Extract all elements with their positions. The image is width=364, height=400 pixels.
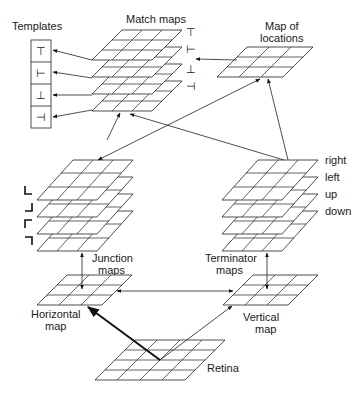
junction-glyphs: [25, 186, 32, 245]
template-glyph-t: ⊤: [36, 45, 46, 58]
map-of-locations: Map of locations: [217, 20, 313, 77]
junction-glyph-lower-left-corner: [25, 186, 32, 194]
retina: Retina: [95, 340, 240, 380]
junction-glyph-upper-right-corner: [25, 237, 32, 245]
vertical-map: Vertical map: [223, 275, 318, 335]
junction-glyph-lower-right-corner: [25, 203, 32, 211]
template-glyph-right-tee: ⊢: [36, 67, 46, 80]
vertical-map-label-2: map: [255, 323, 276, 335]
terminator-direction-up: up: [325, 188, 337, 200]
match-maps-label: Match maps: [126, 13, 186, 25]
locations-to-match-arrow: [196, 59, 237, 60]
terminator-direction-down: down: [325, 205, 351, 217]
horizontal-map: Horizontal map: [31, 275, 132, 332]
horizontal-map-label-1: Horizontal: [31, 308, 81, 320]
match-maps-stack: Match maps: [92, 13, 196, 111]
map-of-locations-label-1: Map of: [265, 20, 300, 32]
junction-maps-label-2: maps: [98, 264, 125, 276]
terminator-maps-stack: right left up down Terminator maps: [205, 154, 351, 276]
template-glyph-up-tee: ⊥: [36, 89, 46, 102]
map-of-locations-label-2: locations: [260, 32, 304, 44]
match-glyph-right-tee: ⊢: [186, 43, 196, 56]
retina-label: Retina: [207, 362, 240, 374]
templates-label: Templates: [12, 20, 63, 32]
horizontal-map-label-2: map: [45, 320, 66, 332]
terminator-direction-right: right: [325, 154, 346, 166]
junction-glyph-upper-left-corner: [25, 220, 32, 228]
match-glyph-t: ⊤: [186, 26, 196, 39]
diagram-canvas: Templates ⊤ ⊢ ⊥ ⊣ Match maps: [0, 0, 364, 400]
terminator-direction-left: left: [325, 171, 340, 183]
templates-box: Templates ⊤ ⊢ ⊥ ⊣: [12, 20, 63, 128]
terminator-maps-label-1: Terminator: [205, 252, 257, 264]
template-glyph-left-tee: ⊣: [36, 111, 46, 124]
terminator-maps-label-2: maps: [216, 264, 243, 276]
junction-maps-label-1: Junction: [92, 252, 133, 264]
match-glyph-up-tee: ⊥: [186, 63, 196, 76]
match-glyph-left-tee: ⊣: [186, 80, 196, 93]
junction-maps-stack: Junction maps: [25, 160, 133, 276]
vertical-map-label-1: Vertical: [243, 311, 279, 323]
match-to-template-arrows: [53, 50, 92, 117]
